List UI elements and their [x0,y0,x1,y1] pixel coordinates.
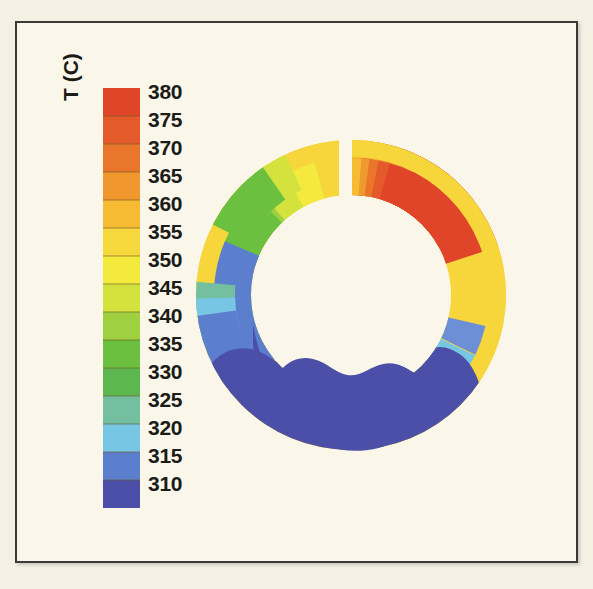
cb-tick-310: 310 [148,472,182,496]
colorbar[interactable] [103,88,140,508]
cb-band-350 [103,256,140,284]
cb-tick-320: 320 [148,416,182,440]
contour-plot [17,23,576,561]
cb-tick-370: 370 [148,136,182,160]
cb-tick-340: 340 [148,304,182,328]
cb-tick-380: 380 [148,80,182,104]
cb-band-330 [103,368,140,396]
cb-band-375 [103,116,140,144]
cb-tick-330: 330 [148,360,182,384]
cb-tick-375: 375 [148,108,182,132]
cb-band-355 [103,228,140,256]
figure-frame: T (C) 380 375 370 365 360 355 350 345 34… [15,21,578,563]
colorbar-title: T (C) [59,53,83,101]
cb-band-360 [103,200,140,228]
cb-band-380 [103,88,140,116]
cb-band-325 [103,396,140,424]
cb-tick-335: 335 [148,332,182,356]
cb-band-365 [103,172,140,200]
cb-tick-355: 355 [148,220,182,244]
cb-tick-365: 365 [148,164,182,188]
cut-slit [339,111,352,297]
cb-tick-350: 350 [148,248,182,272]
cb-tick-345: 345 [148,276,182,300]
cb-band-335 [103,340,140,368]
cb-band-310 [103,480,140,508]
cb-band-340 [103,312,140,340]
cb-band-345 [103,284,140,312]
cb-band-370 [103,144,140,172]
cb-band-320 [103,424,140,452]
cb-band-315 [103,452,140,480]
cb-tick-325: 325 [148,388,182,412]
cb-tick-360: 360 [148,192,182,216]
cb-tick-315: 315 [148,444,182,468]
colorbar-bands [103,88,140,508]
